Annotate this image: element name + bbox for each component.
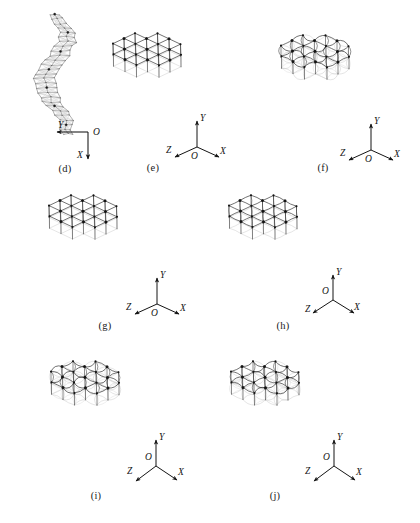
panel-i-axis-origin: O <box>145 452 152 462</box>
panel-g-axis-triad: Y Z O X <box>126 268 188 320</box>
panel-d-axis-label-x: X <box>76 150 84 160</box>
panel-j-axis-label-x: X <box>355 467 363 477</box>
panel-j-axis-triad: Y O Z X <box>302 430 366 488</box>
panel-f-axis-label-y: Y <box>374 116 381 126</box>
panel-g-axis-label-z: Z <box>126 302 132 312</box>
panel-e-axis-label-z: Z <box>166 145 172 155</box>
panel-f-axis-label-x: X <box>393 149 401 159</box>
panel-e-axis-origin: O <box>191 151 198 161</box>
panel-h: Y O Z X (h) <box>198 178 378 333</box>
panel-h-axis-triad: Y O Z X <box>302 266 364 320</box>
panel-j-caption: (j) <box>200 490 350 501</box>
panel-i-axis-label-z: Z <box>127 466 133 476</box>
panel-i: Y O Z X (i) <box>18 340 198 512</box>
panel-f-axis-triad: Y Z O X <box>340 114 402 166</box>
panel-j-axis-label-y: Y <box>337 432 344 442</box>
panel-h-caption: (h) <box>208 320 358 331</box>
panel-i-axis-label-x: X <box>177 467 185 477</box>
panel-h-axis-label-z: Z <box>305 304 311 314</box>
panel-j: Y O Z X (j) <box>198 340 378 512</box>
panel-e-axis-label-x: X <box>219 146 227 156</box>
panel-f: Y Z O X (f) <box>248 14 408 174</box>
panel-e-axis-triad: Y Z O X <box>166 111 228 163</box>
panel-g-axis-label-x: X <box>179 303 187 313</box>
panel-g-caption: (g) <box>30 320 180 331</box>
panel-h-axis-label-x: X <box>353 302 361 312</box>
panel-f-caption: (f) <box>248 162 398 173</box>
panel-h-axis-label-y: Y <box>336 267 343 277</box>
panel-h-axis-origin: O <box>322 286 329 296</box>
panel-j-axis-origin: O <box>323 452 330 462</box>
panel-g-axis-origin: O <box>151 308 158 318</box>
panel-j-axis-label-z: Z <box>305 466 311 476</box>
panel-e: Y Z O X (e) <box>88 14 228 174</box>
figure-canvas: Y O X (d) Y Z <box>0 0 420 523</box>
panel-e-axis-label-y: Y <box>200 113 207 123</box>
panel-g-axis-label-y: Y <box>160 270 167 280</box>
panel-e-caption: (e) <box>88 162 218 173</box>
panel-i-axis-label-y: Y <box>159 432 166 442</box>
panel-i-axis-triad: Y O Z X <box>124 430 188 488</box>
panel-d-axis-label-y: Y <box>58 120 65 130</box>
panel-f-axis-label-z: Z <box>340 148 346 158</box>
panel-i-caption: (i) <box>21 490 171 501</box>
panel-g: Y Z O X (g) <box>18 178 198 333</box>
